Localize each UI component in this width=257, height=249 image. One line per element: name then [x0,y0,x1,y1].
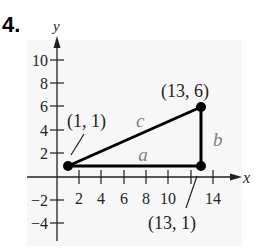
y-tick-8: 8 [40,75,48,92]
y-tick-neg2: −2 [31,192,48,209]
point-1-1 [63,161,73,171]
y-tick-10: 10 [32,52,48,69]
x-axis-label: x [242,169,250,186]
x-tick-4: 4 [97,190,105,207]
point-13-1 [196,161,206,171]
side-a-label: a [138,144,148,165]
point-label-13-1: (13, 1) [148,213,196,234]
x-tick-6: 6 [120,190,128,207]
y-tick-neg4: −4 [31,215,48,232]
triangle-chart: 4. y 10 8 6 4 2 −2 −4 x 2 4 [0,0,257,249]
x-tick-10: 10 [160,190,176,207]
y-tick-4: 4 [40,122,48,139]
plot-background [27,40,242,246]
y-tick-2: 2 [40,145,48,162]
side-b-label: b [213,129,223,150]
y-tick-6: 6 [40,98,48,115]
point-label-1-1: (1, 1) [67,111,106,132]
x-tick-2: 2 [75,190,83,207]
x-tick-14: 14 [205,190,221,207]
problem-number: 4. [2,12,20,37]
side-c-label: c [136,110,145,131]
y-axis-label: y [51,18,60,34]
point-13-6 [196,102,206,112]
x-tick-8: 8 [142,190,150,207]
point-label-13-6: (13, 6) [161,81,209,102]
